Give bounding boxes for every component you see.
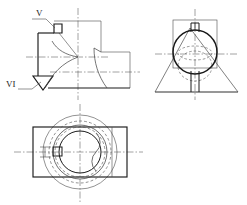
front-view-upper-block-outline xyxy=(54,21,101,52)
top-view-keyway xyxy=(53,147,62,156)
engineering-drawing: V VI xyxy=(0,0,247,205)
top-view xyxy=(14,104,143,203)
front-view-curve-right xyxy=(94,48,107,88)
side-view-trapezoid-shape xyxy=(155,28,238,92)
front-view-centerlines xyxy=(26,8,140,100)
front-view-detail-v-square xyxy=(54,24,62,33)
front-view-curve-right-top xyxy=(94,48,101,52)
top-view-keyway-square xyxy=(53,147,62,156)
front-view-curve-upper-left xyxy=(52,41,78,57)
side-view-trapezoid xyxy=(155,28,238,92)
front-view-thin-outlines xyxy=(54,21,130,88)
front-view: V VI xyxy=(6,8,140,100)
top-view-lobe-upper xyxy=(96,133,100,152)
front-view-intersection-curves xyxy=(45,41,107,88)
drawing-canvas: V VI xyxy=(0,0,247,205)
top-view-lobe-lower xyxy=(92,152,96,171)
front-view-curve-lower-left xyxy=(45,57,78,88)
front-view-diagonal-edge xyxy=(59,33,78,57)
detail-vi-label: VI xyxy=(6,79,16,89)
side-view xyxy=(155,9,238,100)
front-view-right-block-outline xyxy=(101,52,130,88)
detail-v-label: V xyxy=(36,8,43,18)
detail-v-leader-line xyxy=(32,19,55,28)
detail-v-leader xyxy=(32,19,55,28)
